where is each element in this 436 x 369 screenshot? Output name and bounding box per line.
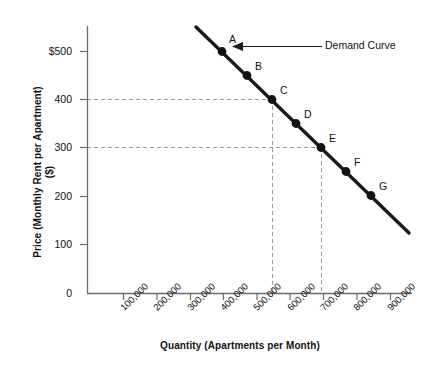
y-axis-title-line-2: ($) xyxy=(44,52,56,292)
demand-curve-chart: Price (Monthly Rent per Apartment) ($) Q… xyxy=(0,0,436,369)
y-tick-label-400: 400 xyxy=(32,93,72,105)
demand-curve-line xyxy=(196,27,409,233)
point-label-f: F xyxy=(354,156,360,168)
point-label-c: C xyxy=(280,84,288,96)
point-label-b: B xyxy=(255,60,262,72)
data-point-e xyxy=(317,143,326,152)
data-point-a xyxy=(218,47,227,56)
y-tick-label-500: $500 xyxy=(32,45,72,57)
y-axis-title: Price (Monthly Rent per Apartment) ($) xyxy=(32,52,56,292)
y-tick-label-0: 0 xyxy=(32,287,72,299)
data-point-g xyxy=(367,191,376,200)
y-axis-title-line-1: Price (Monthly Rent per Apartment) xyxy=(32,52,44,292)
point-label-e: E xyxy=(329,132,336,144)
demand-curve-annotation-label: Demand Curve xyxy=(325,39,396,51)
point-label-g: G xyxy=(379,180,387,192)
y-tick-label-100: 100 xyxy=(32,238,72,250)
data-point-f xyxy=(342,167,351,176)
point-label-d: D xyxy=(304,108,312,120)
point-label-a: A xyxy=(229,33,236,45)
y-tick-label-200: 200 xyxy=(32,190,72,202)
y-tick-label-300: 300 xyxy=(32,141,72,153)
data-point-d xyxy=(292,119,301,128)
x-axis-title: Quantity (Apartments per Month) xyxy=(95,340,385,351)
data-point-b xyxy=(243,71,252,80)
data-point-c xyxy=(268,95,277,104)
